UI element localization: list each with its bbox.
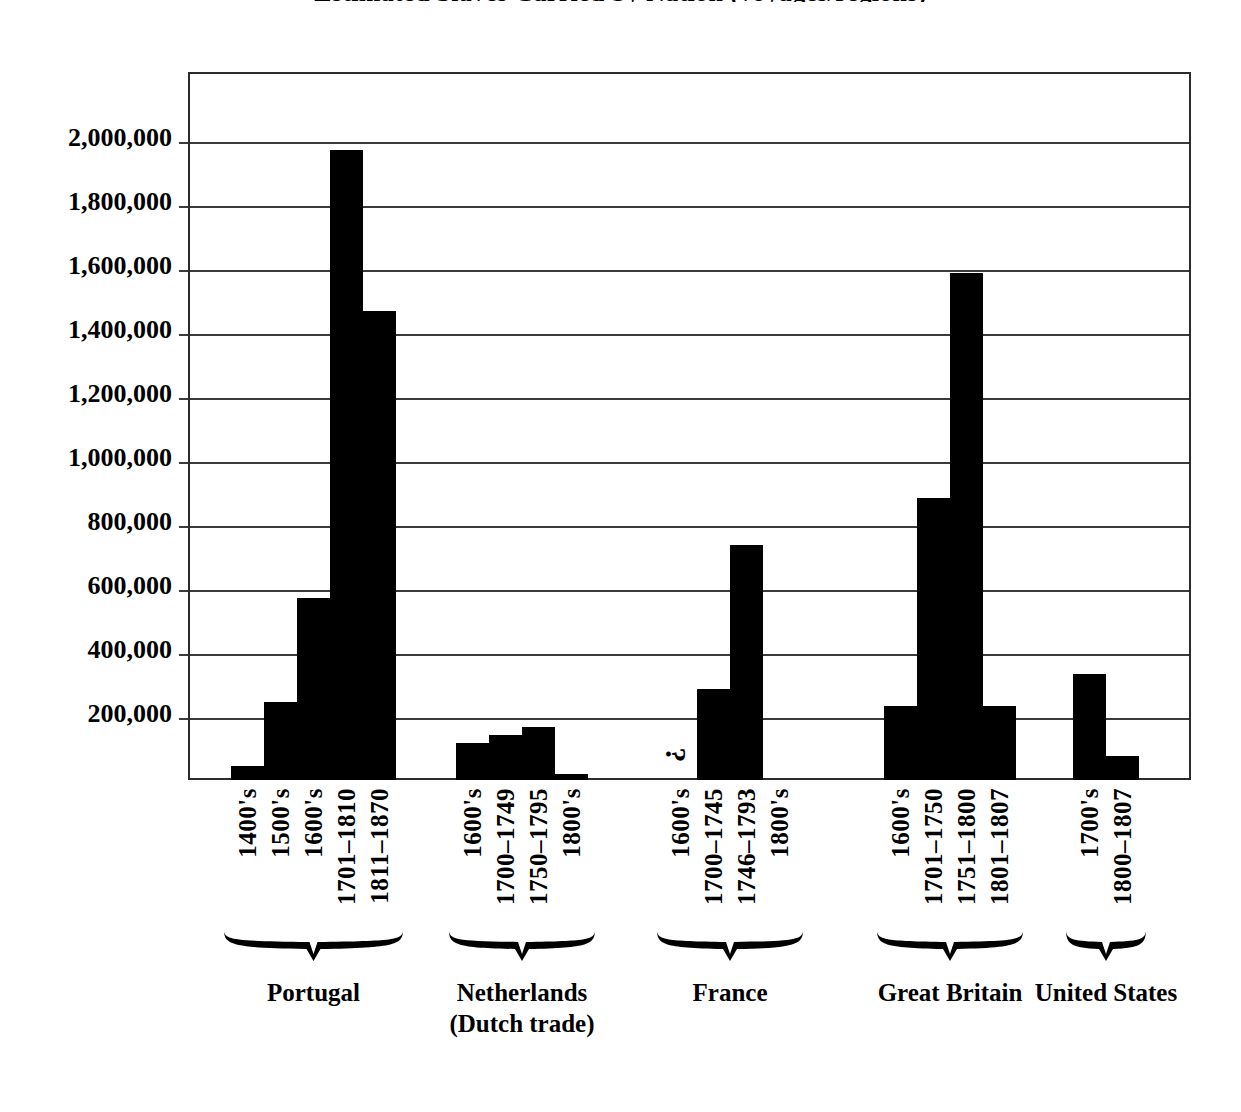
y-axis-tick: [179, 654, 188, 656]
bar: [950, 273, 983, 780]
x-axis-tick-label: 1701–1750: [921, 788, 946, 905]
y-axis-label: 1,000,000: [0, 443, 172, 473]
bar: [884, 706, 917, 780]
y-axis-label: 2,000,000: [0, 123, 172, 153]
x-axis-tick-label: 1700's: [1077, 788, 1102, 858]
y-axis-tick: [179, 142, 188, 144]
x-axis-tick-label: 1600's: [888, 788, 913, 858]
x-axis-tick-label: 1801–1807: [987, 788, 1012, 905]
y-axis-tick: [179, 462, 188, 464]
group-brace: [222, 928, 405, 966]
bar: [1073, 674, 1106, 780]
gridline: [190, 142, 1189, 144]
x-axis-tick-label: 1500's: [268, 788, 293, 858]
bar: [489, 735, 522, 780]
x-axis-tick-label: 1811–1870: [367, 788, 392, 904]
y-axis-label: 1,600,000: [0, 251, 172, 281]
x-axis-tick-label: 1746–1793: [734, 788, 759, 905]
bar: [363, 311, 396, 780]
y-axis-label: 800,000: [0, 507, 172, 537]
bar: [983, 706, 1016, 780]
bar: [330, 150, 363, 780]
y-axis-label: 1,200,000: [0, 379, 172, 409]
bar: [456, 743, 489, 780]
x-axis-tick-label: 1800's: [767, 788, 792, 858]
group-brace: [875, 928, 1025, 966]
y-axis-label: 600,000: [0, 571, 172, 601]
y-axis-label: 1,400,000: [0, 315, 172, 345]
x-axis-tick-label: 1700–1749: [493, 788, 518, 905]
group-name-united-states: United States: [976, 978, 1236, 1009]
bar: [522, 727, 555, 780]
x-axis-tick-label: 1600's: [668, 788, 693, 858]
bar: [555, 774, 588, 780]
bar: [917, 498, 950, 780]
x-axis-tick-label: 1701–1810: [334, 788, 359, 905]
bar: [264, 702, 297, 780]
bar: [297, 598, 330, 780]
x-axis-tick-label: 1750–1795: [526, 788, 551, 905]
x-axis-tick-label: 1700–1745: [701, 788, 726, 905]
chart-title: Estimated Slaves Carried by Nation (voya…: [0, 0, 1241, 2]
unknown-value-marker: ?: [659, 748, 693, 763]
x-axis-tick-label: 1800–1807: [1110, 788, 1135, 905]
y-axis-label: 1,800,000: [0, 187, 172, 217]
group-brace: [655, 928, 805, 966]
x-axis-tick-label: 1751–1800: [954, 788, 979, 905]
bar: [1106, 756, 1139, 780]
y-axis-tick: [179, 526, 188, 528]
bar: [231, 766, 264, 780]
y-axis-tick: [179, 334, 188, 336]
y-axis-label: 200,000: [0, 699, 172, 729]
bar: [697, 689, 730, 780]
y-axis-label: 400,000: [0, 635, 172, 665]
y-axis-tick: [179, 590, 188, 592]
x-axis-tick-label: 1600's: [460, 788, 485, 858]
x-axis-tick-label: 1600's: [301, 788, 326, 858]
bar: [730, 545, 763, 780]
x-axis-tick-label: 1800's: [559, 788, 584, 858]
x-axis-tick-label: 1400's: [235, 788, 260, 858]
y-axis-tick: [179, 718, 188, 720]
group-brace: [447, 928, 597, 966]
y-axis-tick: [179, 206, 188, 208]
y-axis-tick: [179, 398, 188, 400]
group-brace: [1064, 928, 1148, 966]
chart-root: Estimated Slaves Carried by Nation (voya…: [0, 0, 1241, 1112]
y-axis-tick: [179, 270, 188, 272]
